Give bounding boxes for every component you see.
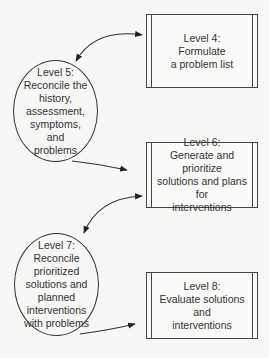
level6-line: Generate and prioritize xyxy=(153,149,251,175)
level7-line: with problems xyxy=(24,317,89,330)
level8-text: Level 8: Evaluate solutions and interven… xyxy=(153,280,251,332)
level8-title: Level 8: xyxy=(153,280,251,293)
arrow-level6-level7 xyxy=(84,196,142,233)
level8-line: interventions xyxy=(153,319,251,332)
level7-line: Reconcile xyxy=(24,252,89,265)
level6-box: Level 6: Generate and prioritize solutio… xyxy=(146,142,258,208)
level7-line: prioritized xyxy=(24,265,89,278)
level6-line: solutions and plans for xyxy=(153,175,251,201)
level4-box: Level 4: Formulate a problem list xyxy=(146,14,258,88)
level5-line: history, xyxy=(20,92,91,105)
level8-box: Level 8: Evaluate solutions and interven… xyxy=(146,272,258,339)
level7-line: solutions and xyxy=(24,278,89,291)
level6-title: Level 6: xyxy=(153,136,251,149)
level7-circle: Level 7: Reconcile prioritized solutions… xyxy=(14,233,99,336)
level7-line: interventions xyxy=(24,304,89,317)
level7-text: Level 7: Reconcile prioritized solutions… xyxy=(24,239,89,330)
level4-title: Level 4: xyxy=(171,32,233,45)
level5-text: Level 5: Reconcile the history, assessme… xyxy=(20,66,91,157)
level5-title: Level 5: xyxy=(20,66,91,79)
arrow-level4-level5 xyxy=(76,34,142,61)
level8-line: Evaluate solutions and xyxy=(153,293,251,319)
level7-line: planned xyxy=(24,291,89,304)
level6-line: interventions xyxy=(153,201,251,214)
level5-line: assessment, xyxy=(20,105,91,118)
arrow-level5-level6 xyxy=(72,161,127,170)
level7-title: Level 7: xyxy=(24,239,89,252)
level4-line: Formulate xyxy=(171,45,233,58)
level5-circle: Level 5: Reconcile the history, assessme… xyxy=(13,60,98,162)
flow-diagram: Level 4: Formulate a problem list Level … xyxy=(0,0,269,358)
level5-line: Reconcile the xyxy=(20,79,91,92)
level6-text: Level 6: Generate and prioritize solutio… xyxy=(153,136,251,214)
level5-line: symptoms, and xyxy=(20,118,91,144)
level4-line: a problem list xyxy=(171,58,233,71)
level4-text: Level 4: Formulate a problem list xyxy=(171,32,233,71)
level5-line: problems xyxy=(20,144,91,157)
